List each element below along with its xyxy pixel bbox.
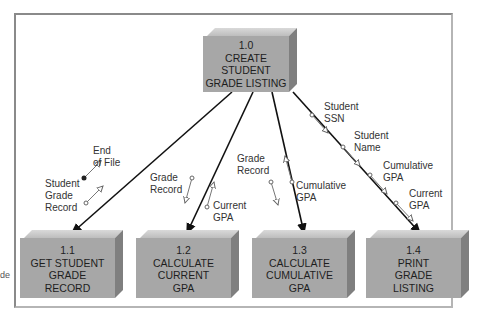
module-label: CALCULATE: [252, 257, 347, 270]
module-1-4-print-grade-listing[interactable]: 1.4 PRINT GRADE LISTING: [366, 238, 461, 298]
module-1-1-get-student-grade-record[interactable]: 1.1 GET STUDENT GRADE RECORD: [20, 238, 115, 298]
couple-label-student-name: Student Name: [354, 130, 388, 154]
couple-label-end-of-file: End of File: [93, 145, 120, 169]
module-label: RECORD: [20, 282, 115, 295]
couple-label-student-ssn: Student SSN: [324, 101, 358, 125]
couple-label-grade-record-1-2: Grade Record: [150, 172, 182, 196]
module-label: GPA: [136, 282, 231, 295]
couple-label-student-grade-record: Student Grade Record: [45, 178, 79, 214]
module-label: GRADE LISTING: [203, 77, 289, 90]
module-label: GRADE: [20, 269, 115, 282]
module-label: 1.4: [366, 244, 461, 257]
module-label: CREATE: [203, 52, 289, 65]
couple-label-current-gpa-1-2: Current GPA: [213, 200, 246, 224]
module-label: PRINT: [366, 257, 461, 270]
module-label: GET STUDENT: [20, 257, 115, 270]
module-label: CUMULATIVE: [252, 269, 347, 282]
module-1-0-create-student-grade-listing[interactable]: 1.0 CREATE STUDENT GRADE LISTING: [203, 36, 289, 92]
module-label: 1.0: [203, 39, 289, 52]
module-1-2-calculate-current-gpa[interactable]: 1.2 CALCULATE CURRENT GPA: [136, 238, 231, 298]
module-label: 1.1: [20, 244, 115, 257]
module-label: LISTING: [366, 282, 461, 295]
couple-label-grade-record-1-3: Grade Record: [237, 153, 269, 177]
module-label: CALCULATE: [136, 257, 231, 270]
couple-label-cumulative-gpa-1-4: Cumulative GPA: [383, 160, 433, 184]
module-label: STUDENT: [203, 64, 289, 77]
module-label: GPA: [252, 282, 347, 295]
module-label: 1.3: [252, 244, 347, 257]
module-label: 1.2: [136, 244, 231, 257]
module-label: CURRENT: [136, 269, 231, 282]
module-label: GRADE: [366, 269, 461, 282]
couple-label-cumulative-gpa-1-3: Cumulative GPA: [296, 180, 346, 204]
module-1-3-calculate-cumulative-gpa[interactable]: 1.3 CALCULATE CUMULATIVE GPA: [252, 238, 347, 298]
couple-label-current-gpa-1-4: Current GPA: [409, 188, 442, 212]
